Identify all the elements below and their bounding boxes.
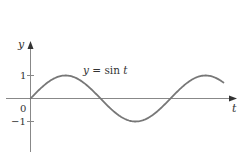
sine-chart: y t 1 0 −1 y = sin t [0, 0, 243, 164]
x-axis-label: t [232, 102, 237, 115]
annotation-t: t [123, 64, 128, 76]
tick-label-neg1: −1 [11, 116, 26, 127]
y-axis-arrow-icon [28, 41, 34, 49]
y-axis-label: y [17, 38, 25, 51]
tick-label-1: 1 [20, 70, 26, 81]
annotation-eq: = sin [89, 64, 123, 76]
tick-label-0: 0 [20, 103, 26, 114]
curve-annotation: y = sin t [82, 64, 128, 76]
x-axis-arrow-icon [229, 96, 237, 102]
